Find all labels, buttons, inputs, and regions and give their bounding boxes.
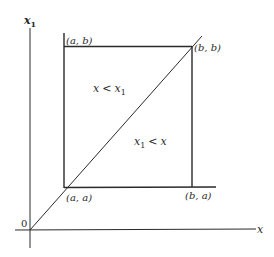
region-label-upper-left: x<x1 xyxy=(93,82,126,97)
x-axis-label: x xyxy=(257,223,264,236)
region-diagram: x1 x 0 (a, b) (b, b) (a, a) (b, a) x<x1 … xyxy=(0,0,274,257)
square-bottom-edge xyxy=(64,187,216,188)
corner-label-top-left: (a, b) xyxy=(66,35,93,46)
origin-label: 0 xyxy=(21,218,27,229)
corner-label-bottom-right: (b, a) xyxy=(185,190,212,201)
corner-label-bottom-left: (a, a) xyxy=(66,192,92,203)
corner-label-top-right: (b, b) xyxy=(194,42,221,53)
y-axis-label: x1 xyxy=(23,14,36,29)
region-label-lower-right: x1<x xyxy=(134,135,168,150)
diagonal-line xyxy=(30,36,202,230)
x-axis xyxy=(15,229,256,230)
